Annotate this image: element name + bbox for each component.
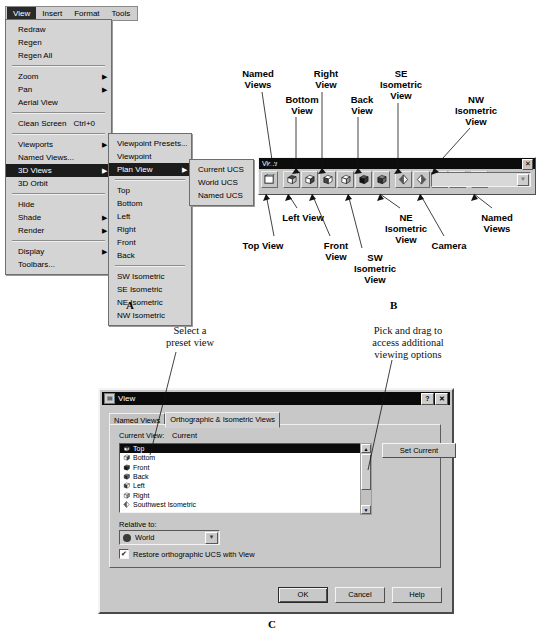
tab-orthographic-isometric-views[interactable]: Orthographic & Isometric Views	[165, 412, 280, 428]
dialog-help-button[interactable]: ?	[421, 393, 434, 405]
views-list-item-label: Front	[133, 463, 149, 472]
views-list-item-label: Left	[133, 481, 145, 490]
views-list-item[interactable]: Right	[120, 490, 360, 499]
relative-to-label: Relative to:	[119, 520, 157, 529]
views-list-item-label: Top	[133, 444, 144, 453]
views-list-item[interactable]: Bottom	[120, 453, 360, 462]
views-list[interactable]: TopBottomFrontBackLeftRightSouthwest Iso…	[119, 443, 361, 513]
world-ucs-icon	[123, 534, 131, 542]
dialog-buttons: OK Cancel Help	[278, 587, 442, 603]
back-view-icon	[123, 473, 130, 480]
views-list-item-label: Southwest Isometric	[133, 500, 196, 509]
views-list-item[interactable]: Back	[120, 472, 360, 481]
tab-panel: Current View: Current TopBottomFrontBack…	[109, 424, 441, 568]
ok-button[interactable]: OK	[278, 587, 328, 603]
bottom-view-icon	[123, 454, 130, 461]
views-list-item[interactable]: Front	[120, 463, 360, 472]
right-view-icon	[123, 492, 130, 499]
figure-c-dialog: Select apreset view Pick and drag toacce…	[0, 0, 546, 638]
front-view-icon	[123, 464, 130, 471]
scroll-down-icon[interactable]: ▼	[361, 505, 371, 514]
help-button[interactable]: Help	[392, 587, 442, 603]
dialog-title-buttons: ? ✕	[421, 393, 448, 405]
views-list-item-label: Right	[133, 491, 149, 500]
cancel-button[interactable]: Cancel	[335, 587, 385, 603]
views-list-scrollbar[interactable]: ▲ ▼	[360, 443, 372, 515]
left-view-icon	[123, 482, 130, 489]
view-dialog: ▤ View ? ✕ Named Views Orthographic & Is…	[98, 388, 454, 614]
annotation-select-preset-view: Select apreset view	[140, 325, 240, 349]
set-current-button[interactable]: Set Current	[382, 443, 456, 458]
views-list-item[interactable]: Top	[120, 444, 360, 453]
current-view-value: Current	[172, 431, 197, 440]
restore-ucs-label: Restore orthographic UCS with View	[133, 550, 255, 559]
restore-ucs-checkbox-row[interactable]: ✔ Restore orthographic UCS with View	[119, 549, 255, 559]
dialog-app-icon: ▤	[104, 393, 115, 404]
views-list-item-label: Bottom	[133, 453, 155, 462]
scroll-up-icon[interactable]: ▲	[361, 444, 371, 453]
relative-to-combo[interactable]: World ▼	[119, 530, 220, 545]
sw-isometric-icon	[123, 501, 130, 508]
annotation-pick-and-drag: Pick and drag toaccess additionalviewing…	[350, 325, 466, 361]
dialog-close-button[interactable]: ✕	[435, 393, 448, 405]
views-list-item[interactable]: Left	[120, 481, 360, 490]
figure-label-c: C	[268, 618, 276, 630]
dialog-title-bar: ▤ View ? ✕	[102, 392, 450, 405]
scrollbar-thumb[interactable]	[361, 454, 371, 490]
views-list-item-label: Back	[133, 472, 149, 481]
views-list-item[interactable]: Southwest Isometric	[120, 500, 360, 509]
relative-to-value: World	[135, 533, 154, 542]
dialog-title-text: View	[118, 392, 135, 405]
relative-to-arrow-icon[interactable]: ▼	[205, 532, 218, 544]
current-view-label: Current View:	[119, 431, 164, 440]
restore-ucs-checkbox[interactable]: ✔	[119, 549, 129, 559]
top-view-icon	[123, 445, 130, 452]
